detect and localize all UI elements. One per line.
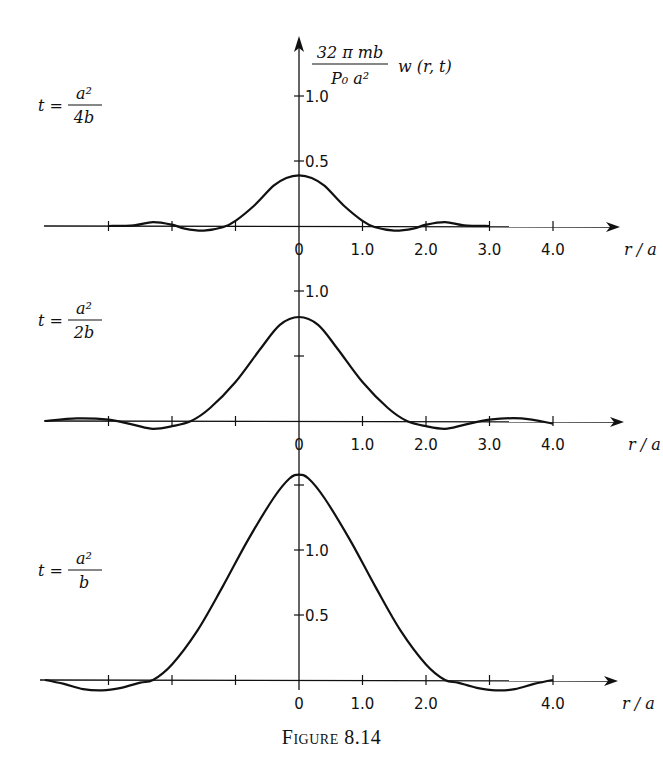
- x-tick-label: 3.0: [478, 241, 502, 259]
- svg-text:b: b: [79, 573, 89, 592]
- svg-text:t =: t =: [38, 561, 63, 580]
- y-tick-label: 1.0: [305, 542, 329, 560]
- x-tick-label: 4.0: [541, 436, 565, 454]
- y-label-function: w (r, t): [398, 57, 452, 76]
- svg-text:t =: t =: [38, 311, 63, 330]
- svg-text:a²: a²: [76, 549, 92, 568]
- figure-canvas: 01.02.03.04.0r / a0.51.0t =a²4b01.02.03.…: [0, 0, 663, 783]
- y-tick-label: 1.0: [305, 283, 329, 301]
- y-label-numerator: 32 π mb: [317, 43, 383, 62]
- x-axis-label: r / a: [628, 435, 661, 454]
- x-axis: [44, 421, 618, 422]
- x-tick-label: 2.0: [414, 695, 438, 713]
- svg-text:a²: a²: [76, 299, 92, 318]
- caption-number: 8.14: [344, 726, 381, 748]
- figure-caption: Figure 8.14: [0, 726, 663, 749]
- x-axis: [40, 680, 612, 681]
- x-tick-label: 2.0: [414, 436, 438, 454]
- x-tick-label: 2.0: [414, 241, 438, 259]
- panel-time-label: t =a²4b: [38, 84, 102, 127]
- y-tick-label: 0.5: [305, 607, 329, 625]
- y-axis-label: 32 π mb P₀ a² w (r, t): [312, 43, 452, 88]
- x-tick-label: 4.0: [541, 241, 565, 259]
- svg-text:a²: a²: [76, 84, 92, 103]
- panel-3: 01.02.04.0r / a0.51.0t =a²b: [38, 475, 655, 713]
- x-axis-label: r / a: [624, 240, 657, 259]
- panel-1: 01.02.03.04.0r / a0.51.0t =a²4b: [38, 84, 657, 259]
- x-tick-label: 0: [294, 695, 304, 713]
- svg-text:2b: 2b: [73, 323, 94, 342]
- y-tick-label: 1.0: [305, 88, 329, 106]
- x-tick-label: 1.0: [351, 695, 375, 713]
- svg-text:4b: 4b: [73, 108, 94, 127]
- y-label-denominator: P₀ a²: [330, 69, 369, 88]
- x-tick-label: 3.0: [478, 436, 502, 454]
- y-tick-label: 0.5: [305, 153, 329, 171]
- x-axis-label: r / a: [622, 694, 655, 713]
- x-tick-label: 1.0: [351, 241, 375, 259]
- panel-time-label: t =a²b: [38, 549, 102, 592]
- panel-2: 01.02.03.04.0r / a1.0t =a²2b: [38, 283, 661, 454]
- panel-time-label: t =a²2b: [38, 299, 102, 342]
- svg-text:t =: t =: [38, 96, 63, 115]
- x-tick-label: 1.0: [351, 436, 375, 454]
- x-tick-label: 4.0: [541, 695, 565, 713]
- caption-prefix: Figure: [282, 726, 339, 748]
